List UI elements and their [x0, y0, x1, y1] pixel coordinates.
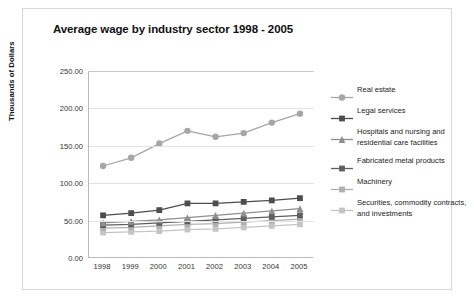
x-axis-tick-label: 1999 — [115, 262, 145, 271]
data-point — [156, 228, 162, 234]
series-layer — [89, 71, 314, 258]
circle-marker-icon — [331, 88, 353, 96]
data-point — [128, 155, 134, 161]
legend-item[interactable]: Fabricated metal products — [331, 156, 473, 169]
data-point — [339, 208, 345, 214]
y-axis-title: Thousands of Dollars — [7, 41, 16, 121]
y-axis-tick-label: 200.00 — [31, 104, 83, 113]
x-axis-tick-label: 2005 — [284, 262, 314, 271]
data-point — [213, 226, 219, 232]
data-point — [269, 119, 275, 125]
y-axis-tick-label: 0.00 — [31, 254, 83, 263]
chart-frame: Average wage by industry sector 1998 - 2… — [22, 8, 452, 290]
square-marker-icon — [331, 201, 353, 209]
data-point — [339, 116, 345, 122]
square-marker-icon — [331, 180, 353, 188]
y-axis-tick-label: 150.00 — [31, 142, 83, 151]
data-point — [269, 223, 275, 229]
gridline — [89, 183, 314, 184]
gridline — [89, 146, 314, 147]
data-point — [339, 94, 345, 100]
data-point — [339, 187, 345, 193]
y-axis-tick-label: 250.00 — [31, 67, 83, 76]
square-marker-icon — [331, 159, 353, 167]
legend-item-label: Machinery — [357, 177, 473, 188]
x-axis-tick-label: 2004 — [256, 262, 286, 271]
data-point — [297, 221, 303, 227]
data-point — [213, 200, 219, 206]
data-point — [100, 212, 106, 218]
x-axis-tick-label: 2003 — [228, 262, 258, 271]
data-point — [185, 200, 191, 206]
gridline — [89, 108, 314, 109]
square-marker-icon — [331, 109, 353, 117]
legend-item[interactable]: Real estate — [331, 85, 473, 98]
legend-item[interactable]: Legal services — [331, 106, 473, 119]
gridline — [89, 71, 314, 72]
x-axis-tick-label: 2001 — [171, 262, 201, 271]
x-axis-tick-label: 1998 — [87, 262, 117, 271]
legend-item[interactable]: Securities, commodity contracts, and inv… — [331, 198, 473, 219]
legend-item-label: Real estate — [357, 85, 473, 96]
data-point — [241, 199, 247, 205]
triangle-marker-icon — [331, 130, 353, 138]
legend-item-label: Legal services — [357, 106, 473, 117]
data-point — [297, 110, 303, 116]
gridline — [89, 221, 314, 222]
legend-item-label: Hospitals and nursing and residential ca… — [357, 127, 473, 148]
legend-item[interactable]: Hospitals and nursing and residential ca… — [331, 127, 473, 148]
data-point — [185, 227, 191, 233]
x-axis-tick-label: 2000 — [143, 262, 173, 271]
plot-area — [88, 71, 313, 258]
data-point — [128, 210, 134, 216]
legend-item-label: Fabricated metal products — [357, 156, 473, 167]
y-axis-tick-label: 100.00 — [31, 179, 83, 188]
data-point — [269, 214, 275, 220]
x-axis-tick-label: 2002 — [200, 262, 230, 271]
chart-title: Average wage by industry sector 1998 - 2… — [23, 23, 323, 35]
data-point — [212, 134, 218, 140]
chart-legend: Real estateLegal servicesHospitals and n… — [331, 85, 473, 227]
data-point — [339, 166, 345, 172]
y-axis-tick-label: 50.00 — [31, 217, 83, 226]
data-point — [269, 198, 275, 204]
data-point — [240, 130, 246, 136]
legend-item[interactable]: Machinery — [331, 177, 473, 190]
data-point — [297, 195, 303, 201]
data-point — [184, 128, 190, 134]
data-point — [297, 212, 303, 218]
data-point — [100, 163, 106, 169]
data-point — [241, 224, 247, 230]
legend-item-label: Securities, commodity contracts, and inv… — [357, 198, 473, 219]
data-point — [156, 207, 162, 213]
